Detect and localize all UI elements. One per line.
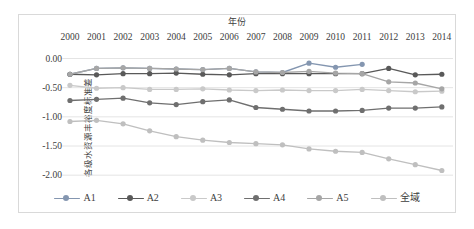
x-tick-label: 2008 <box>269 31 295 43</box>
plot-svg <box>62 55 453 181</box>
data-point <box>174 66 179 71</box>
legend-marker-icon <box>181 194 207 203</box>
x-tick-label: 2007 <box>243 31 269 43</box>
data-point <box>120 96 125 101</box>
legend-item-A4[interactable]: A4 <box>244 192 285 204</box>
y-tick-label: 0.00 <box>45 53 62 65</box>
data-point <box>439 104 444 109</box>
data-point <box>439 72 444 77</box>
data-point <box>200 67 205 72</box>
data-point <box>120 121 125 126</box>
legend-item-A1[interactable]: A1 <box>54 192 95 204</box>
y-tick-label: -2.00 <box>42 169 62 181</box>
data-point <box>253 105 258 110</box>
data-point <box>227 97 232 102</box>
y-tick-label: -1.50 <box>42 140 62 152</box>
series-A4 <box>67 96 444 114</box>
series-A3 <box>67 83 444 95</box>
data-point <box>67 72 72 77</box>
x-tick-label: 2012 <box>376 31 402 43</box>
legend-marker-icon <box>371 194 397 203</box>
data-point <box>360 71 365 76</box>
legend-marker-icon <box>307 194 333 203</box>
data-point <box>360 62 365 67</box>
data-point <box>227 87 232 92</box>
data-point <box>200 86 205 91</box>
data-point <box>120 85 125 90</box>
data-point <box>174 87 179 92</box>
x-tick-label: 2013 <box>402 31 428 43</box>
data-point <box>200 72 205 77</box>
chart-screenshot: 年份 2000200120022003200420052006200720082… <box>0 0 474 229</box>
legend-item-全域[interactable]: 全域 <box>371 192 420 204</box>
legend-marker-icon <box>54 194 80 203</box>
data-point <box>147 87 152 92</box>
x-tick-label: 2002 <box>110 31 136 43</box>
legend-label: 全域 <box>400 192 420 204</box>
x-tick-label: 2001 <box>84 31 110 43</box>
data-point <box>147 66 152 71</box>
data-point <box>67 98 72 103</box>
data-point <box>94 118 99 123</box>
data-point <box>67 119 72 124</box>
legend-marker-icon <box>118 194 144 203</box>
data-point <box>120 71 125 76</box>
y-axis-tick-labels: 0.00-0.50-1.00-1.50-2.00 <box>24 47 62 192</box>
data-point <box>360 150 365 155</box>
legend-label: A5 <box>336 192 348 204</box>
data-point <box>174 134 179 139</box>
data-point <box>333 88 338 93</box>
legend-item-A5[interactable]: A5 <box>307 192 348 204</box>
data-point <box>386 66 391 71</box>
legend-item-A3[interactable]: A3 <box>181 192 222 204</box>
data-point <box>94 86 99 91</box>
data-point <box>386 88 391 93</box>
data-point <box>67 83 72 88</box>
data-point <box>413 80 418 85</box>
data-point <box>306 108 311 113</box>
data-point <box>333 70 338 75</box>
data-point <box>94 72 99 77</box>
data-point <box>413 72 418 77</box>
x-tick-label: 2009 <box>296 31 322 43</box>
x-axis-title: 年份 <box>0 17 474 27</box>
data-point <box>227 66 232 71</box>
data-point <box>120 65 125 70</box>
data-point <box>439 86 444 91</box>
x-axis-tick-labels: 2000200120022003200420052006200720082009… <box>58 31 460 43</box>
data-point <box>333 108 338 113</box>
x-tick-label: 2010 <box>323 31 349 43</box>
data-point <box>147 100 152 105</box>
data-point <box>174 102 179 107</box>
data-point <box>386 79 391 84</box>
data-point <box>386 105 391 110</box>
data-point <box>253 69 258 74</box>
plot-area <box>62 55 453 181</box>
legend-item-A2[interactable]: A2 <box>118 192 159 204</box>
data-point <box>280 70 285 75</box>
data-point <box>413 105 418 110</box>
data-point <box>253 88 258 93</box>
data-point <box>306 88 311 93</box>
data-point <box>200 99 205 104</box>
data-point <box>280 87 285 92</box>
data-point <box>147 71 152 76</box>
data-point <box>227 72 232 77</box>
data-point <box>439 168 444 173</box>
data-point <box>306 61 311 66</box>
x-tick-label: 2005 <box>190 31 216 43</box>
y-tick-label: -1.00 <box>42 111 62 123</box>
data-point <box>94 97 99 102</box>
data-point <box>386 156 391 161</box>
x-tick-label: 2006 <box>216 31 242 43</box>
chart-legend: A1A2A3A4A5全域 <box>18 188 456 208</box>
x-tick-label: 2004 <box>163 31 189 43</box>
data-point <box>413 162 418 167</box>
data-point <box>333 65 338 70</box>
legend-label: A2 <box>147 192 159 204</box>
data-point <box>333 149 338 154</box>
x-tick-label: 2000 <box>57 31 83 43</box>
legend-marker-icon <box>244 194 270 203</box>
data-point <box>413 89 418 94</box>
series-全域 <box>67 118 444 173</box>
